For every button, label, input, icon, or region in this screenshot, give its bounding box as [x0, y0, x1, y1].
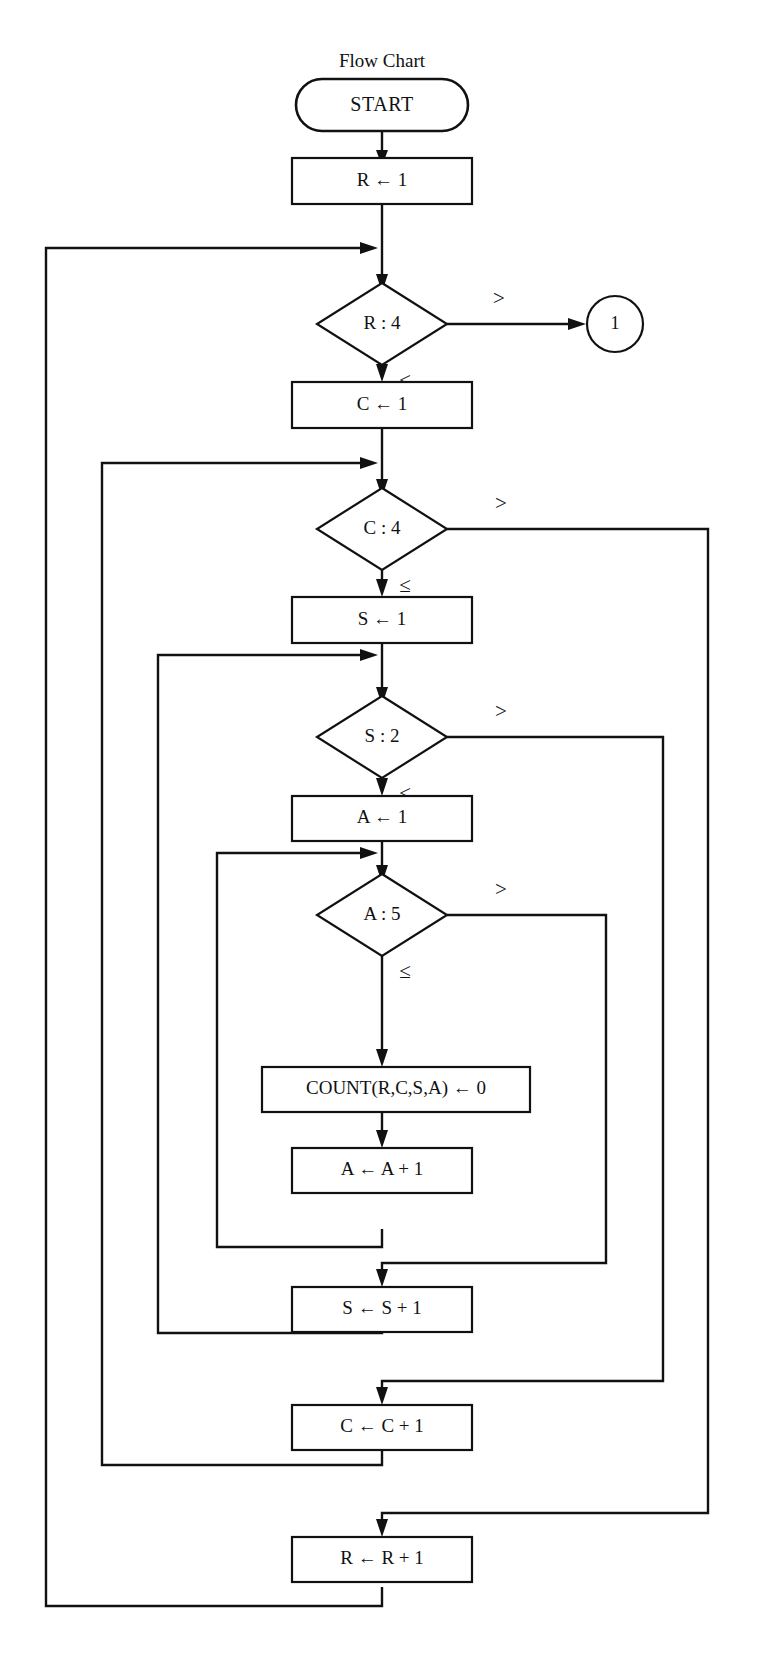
node-inc-s: S ← S + 1 — [292, 1287, 472, 1332]
connector-1-label: 1 — [611, 313, 620, 333]
init-c-label: C ← 1 — [357, 393, 408, 414]
node-test-r: R : 4 > ≤ — [317, 283, 505, 392]
arrowhead-test-r-lessequal — [376, 364, 388, 382]
inc-a-label: A ← A + 1 — [341, 1158, 424, 1179]
node-init-c: C ← 1 — [292, 382, 472, 428]
test-a-label: A : 5 — [364, 903, 401, 924]
arrowhead-test-c-lessequal — [376, 579, 388, 597]
node-init-s: S ← 1 — [292, 597, 472, 643]
node-init-a: A ← 1 — [292, 796, 472, 841]
arrowhead-test-r-greater — [568, 318, 586, 330]
flowchart-svg: Flow Chart — [0, 0, 763, 1674]
inc-r-label: R ← R + 1 — [340, 1547, 424, 1568]
arrowhead-test-s-greater — [376, 1387, 388, 1405]
test-s-label: S : 2 — [365, 725, 400, 746]
node-connector-1: 1 — [587, 296, 643, 352]
node-test-c: C : 4 > ≤ — [317, 488, 507, 597]
test-c-greater-label: > — [495, 491, 507, 515]
edge-inc-r-loopback — [46, 248, 382, 1606]
arrowhead-inc-r-loopback — [360, 242, 378, 254]
test-c-lessequal-label: ≤ — [399, 573, 411, 597]
arrowhead-test-c-greater — [376, 1519, 388, 1537]
page-title: Flow Chart — [339, 50, 426, 71]
node-start: START — [296, 79, 468, 131]
arrowhead-inc-a-loopback — [360, 847, 378, 859]
node-count-zero: COUNT(R,C,S,A) ← 0 — [262, 1067, 530, 1112]
arrowhead-test-a-greater — [376, 1269, 388, 1287]
inc-s-label: S ← S + 1 — [342, 1297, 421, 1318]
flowchart-canvas: Flow Chart — [0, 0, 763, 1674]
arrowhead-count-to-inc-a — [376, 1130, 388, 1148]
test-a-greater-label: > — [495, 877, 507, 901]
arrowhead-test-s-lessequal — [376, 778, 388, 796]
count-zero-label: COUNT(R,C,S,A) ← 0 — [306, 1077, 486, 1099]
node-inc-a: A ← A + 1 — [292, 1148, 472, 1193]
test-s-greater-label: > — [495, 699, 507, 723]
inc-c-label: C ← C + 1 — [340, 1415, 424, 1436]
test-r-label: R : 4 — [364, 312, 401, 333]
test-c-label: C : 4 — [364, 517, 401, 538]
test-a-lessequal-label: ≤ — [399, 959, 411, 983]
init-s-label: S ← 1 — [358, 608, 407, 629]
node-test-s: S : 2 > ≤ — [317, 696, 507, 805]
arrowhead-inc-s-loopback — [360, 649, 378, 661]
init-a-label: A ← 1 — [357, 806, 408, 827]
node-inc-c: C ← C + 1 — [292, 1405, 472, 1450]
arrowhead-inc-c-loopback — [360, 457, 378, 469]
node-inc-r: R ← R + 1 — [292, 1537, 472, 1582]
init-r-label: R ← 1 — [357, 169, 408, 190]
start-label: START — [350, 93, 414, 115]
test-r-greater-label: > — [493, 286, 505, 310]
edge-test-c-greater — [382, 529, 708, 1528]
node-test-a: A : 5 > ≤ — [317, 874, 507, 983]
node-init-r: R ← 1 — [292, 158, 472, 204]
arrowhead-test-a-lessequal — [376, 1049, 388, 1067]
